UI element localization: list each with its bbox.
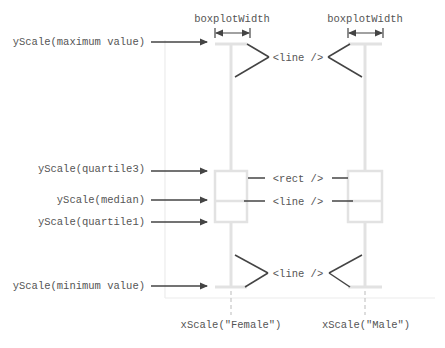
label-top-whisker: <line /> [273,52,323,64]
width-dimension-male [348,28,383,38]
width-label-male: boxplotWidth [327,13,403,25]
label-y-minimum: yScale(minimum value) [13,280,145,292]
width-dimension-female [215,28,250,38]
label-x-male: xScale("Male") [322,319,410,331]
boxplot-female [215,44,247,315]
label-x-female: xScale("Female") [181,319,282,331]
label-y-quartile1: yScale(quartile1) [38,216,145,228]
male-box [348,171,382,222]
boxplot-diagram: boxplotWidth boxplotWidth yScale(maximum… [0,0,445,348]
female-box [215,171,247,222]
label-y-median: yScale(median) [57,194,145,206]
boxplot-male [348,44,382,315]
width-label-female: boxplotWidth [194,13,270,25]
label-y-maximum: yScale(maximum value) [13,36,145,48]
label-bottom-whisker: <line /> [273,268,323,280]
label-median-line: <line /> [273,196,323,208]
label-y-quartile3: yScale(quartile3) [38,163,145,175]
label-box: <rect /> [273,173,323,185]
